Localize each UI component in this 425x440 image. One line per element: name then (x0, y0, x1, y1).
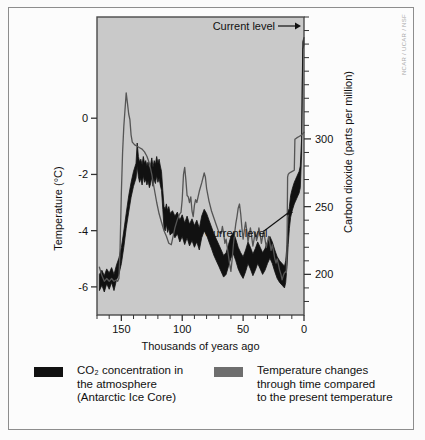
x-tick-label-150: 150 (112, 323, 130, 335)
y-right-axis-title: Carbon dioxide (parts per million) (342, 71, 354, 233)
y-right-tick-label-0: 300 (315, 133, 333, 145)
y-left-tick-label-0: 0 (82, 112, 88, 124)
x-axis-title: Thousands of years ago (141, 340, 259, 352)
x-tick-label-0: 0 (301, 323, 307, 335)
y-right-tick-label-1: 250 (315, 201, 333, 213)
y-right-tick-label-2: 200 (315, 268, 333, 280)
legend-item-co2: CO₂ concentration in the atmosphere (Ant… (34, 364, 183, 405)
temperature-current-level-label: Current level (205, 227, 267, 239)
x-tick-label-50: 50 (237, 323, 249, 335)
legend-item-temperature: Temperature changes through time compare… (214, 364, 393, 405)
chart-svg: 150100500Thousands of years ago0-2-4-6Te… (0, 0, 425, 355)
figure-page: NCAR / UCAR / NSF 150100500Thousands of … (0, 0, 425, 440)
legend-swatch-temperature (214, 367, 243, 377)
y-left-tick-label-3: -6 (78, 281, 88, 293)
plot-background (97, 17, 304, 315)
legend-swatch-co2 (34, 367, 63, 377)
y-left-tick-label-2: -4 (78, 225, 88, 237)
co2-current-level-label: Current level (213, 20, 275, 32)
y-left-tick-label-1: -2 (78, 168, 88, 180)
legend-label-temperature: Temperature changes through time compare… (257, 364, 393, 405)
climate-chart: 150100500Thousands of years ago0-2-4-6Te… (0, 0, 425, 355)
legend-label-co2: CO₂ concentration in the atmosphere (Ant… (77, 364, 183, 405)
chart-legend: CO₂ concentration in the atmosphere (Ant… (18, 364, 408, 426)
y-left-axis-title: Temperature (°C) (52, 166, 64, 250)
x-tick-label-100: 100 (173, 323, 191, 335)
